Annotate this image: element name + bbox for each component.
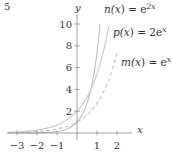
- label-n: n(x) = e2x: [104, 2, 156, 15]
- y-tick-label: 2: [66, 106, 72, 117]
- curve-m: [7, 52, 117, 132]
- y-tick-label: 4: [66, 84, 72, 95]
- x-tick-label: 1: [94, 140, 100, 151]
- y-axis-label: y: [74, 2, 81, 13]
- x-tick-label: −1: [50, 140, 65, 151]
- x-tick-label: −2: [30, 140, 45, 151]
- label-p: p(x) = 2ex: [113, 25, 167, 38]
- x-tick-label: −3: [10, 140, 25, 151]
- axes: xy−3−2−112246810: [8, 2, 143, 151]
- curve-p: [7, 25, 109, 132]
- curves: [7, 24, 117, 133]
- exponential-functions-chart: xy−3−2−112246810 n(x) = e2xp(x) = 2exm(x…: [0, 0, 172, 159]
- y-tick-label: 10: [59, 19, 72, 30]
- x-axis-label: x: [137, 124, 143, 135]
- curve-labels: n(x) = e2xp(x) = 2exm(x) = ex: [104, 2, 172, 68]
- curve-n: [7, 24, 100, 133]
- x-tick-label: 2: [114, 140, 120, 151]
- y-tick-label: 6: [66, 62, 72, 73]
- label-m: m(x) = ex: [121, 55, 172, 68]
- y-tick-label: 8: [66, 40, 72, 51]
